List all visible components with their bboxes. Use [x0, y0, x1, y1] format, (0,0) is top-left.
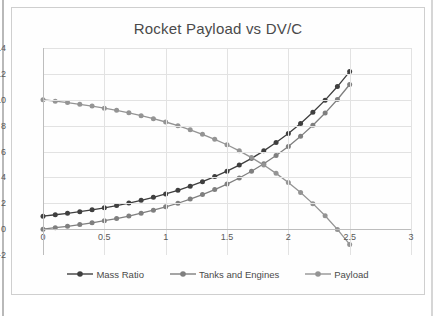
y-axis-tick-label: 10 [0, 95, 6, 105]
data-point-marker [249, 155, 254, 160]
gridline-vertical [166, 48, 167, 255]
data-point-marker [200, 179, 205, 184]
data-point-marker [188, 127, 193, 132]
y-axis-tick-label: 14 [0, 43, 6, 53]
x-axis-tick-label: 0.5 [84, 232, 124, 242]
gridline-vertical [227, 48, 228, 255]
chart-legend: Mass RatioTanks and EnginesPayload [12, 265, 424, 283]
x-axis-tick-label: 1 [146, 232, 186, 242]
chart-area: Rocket Payload vs DV/C 14121086420-200.5… [12, 8, 424, 294]
figure-frame: Rocket Payload vs DV/C 14121086420-200.5… [11, 7, 425, 295]
data-point-marker [200, 132, 205, 137]
legend-marker-icon [170, 265, 196, 283]
legend-label: Mass Ratio [96, 269, 144, 280]
legend-label: Payload [334, 269, 368, 280]
data-point-marker [298, 190, 303, 195]
legend-item-mass-ratio[interactable]: Mass Ratio [67, 265, 144, 283]
data-point-marker [77, 102, 82, 107]
data-point-marker [65, 100, 70, 105]
data-point-marker [139, 113, 144, 118]
y-axis-tick-label: 2 [0, 198, 6, 208]
data-point-marker [335, 84, 340, 89]
data-point-marker [65, 224, 70, 229]
series-tanks-and-engines [41, 82, 353, 232]
data-point-marker [126, 110, 131, 115]
x-axis-tick-label: 1.5 [207, 232, 247, 242]
x-axis-line [43, 229, 411, 230]
data-point-marker [188, 197, 193, 202]
data-point-marker [126, 214, 131, 219]
data-point-marker [151, 195, 156, 200]
data-point-marker [77, 222, 82, 227]
data-point-marker [139, 211, 144, 216]
data-point-marker [237, 163, 242, 168]
y-axis-tick-label: 12 [0, 69, 6, 79]
y-axis-tick-label: -2 [0, 250, 6, 260]
data-point-marker [212, 137, 217, 142]
data-point-marker [77, 209, 82, 214]
legend-item-payload[interactable]: Payload [305, 265, 368, 283]
legend-marker-icon [67, 265, 93, 283]
data-point-marker [175, 188, 180, 193]
y-axis-tick-label: 6 [0, 147, 6, 157]
legend-marker-icon [305, 265, 331, 283]
data-point-marker [274, 140, 279, 145]
data-point-marker [200, 192, 205, 197]
data-point-marker [151, 116, 156, 121]
data-point-marker [114, 216, 119, 221]
page-right-edge [431, 0, 433, 316]
data-point-marker [261, 163, 266, 168]
y-axis-line [43, 48, 44, 255]
gridline-vertical [411, 48, 412, 255]
data-point-marker [90, 207, 95, 212]
legend-label: Tanks and Engines [199, 269, 279, 280]
data-point-marker [65, 211, 70, 216]
gridline-vertical [350, 48, 351, 255]
data-point-marker [274, 153, 279, 158]
y-axis-tick-label: 4 [0, 172, 6, 182]
data-point-marker [249, 169, 254, 174]
x-axis-tick-label: 3 [391, 232, 431, 242]
legend-item-tanks-and-engines[interactable]: Tanks and Engines [170, 265, 279, 283]
gridline-vertical [104, 48, 105, 255]
data-point-marker [323, 111, 328, 116]
data-point-marker [310, 110, 315, 115]
chart-title: Rocket Payload vs DV/C [12, 20, 424, 37]
data-point-marker [114, 108, 119, 113]
data-point-marker [298, 134, 303, 139]
data-point-marker [151, 208, 156, 213]
data-point-marker [53, 212, 58, 217]
data-point-marker [188, 184, 193, 189]
data-point-marker [323, 213, 328, 218]
data-point-marker [90, 220, 95, 225]
y-axis-tick-label: 8 [0, 121, 6, 131]
y-axis-tick-label: 0 [0, 224, 6, 234]
data-point-marker [274, 171, 279, 176]
x-axis-tick-label: 2.5 [330, 232, 370, 242]
data-point-marker [212, 187, 217, 192]
data-point-marker [90, 104, 95, 109]
plot-area: 14121086420-200.511.522.53 [43, 48, 411, 255]
data-point-marker [139, 198, 144, 203]
gridline-vertical [288, 48, 289, 255]
figure-caption [28, 301, 408, 315]
x-axis-tick-label: 2 [268, 232, 308, 242]
